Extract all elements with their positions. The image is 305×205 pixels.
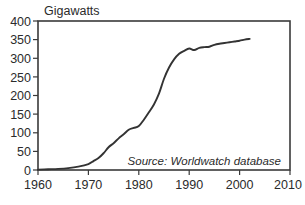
xtick-label-2000: 2000 — [226, 178, 254, 192]
ytick-label-250: 250 — [10, 71, 31, 85]
xtick-label-1990: 1990 — [175, 178, 203, 192]
ytick-label-150: 150 — [10, 108, 31, 122]
ytick-label-50: 50 — [17, 145, 31, 159]
ytick-label-200: 200 — [10, 89, 31, 103]
ytick-label-300: 300 — [10, 52, 31, 66]
capacity-line-series — [38, 39, 250, 170]
plot-frame — [38, 21, 290, 170]
ytick-label-0: 0 — [24, 164, 31, 178]
ytick-label-400: 400 — [10, 15, 31, 29]
y-axis-label: Gigawatts — [44, 4, 100, 18]
chart-canvas: 0 50 100 150 200 250 300 350 400 1960 19… — [0, 0, 305, 205]
xtick-label-1980: 1980 — [125, 178, 153, 192]
xtick-label-1970: 1970 — [74, 178, 102, 192]
xtick-label-1960: 1960 — [24, 178, 52, 192]
source-annotation: Source: Worldwatch database — [128, 155, 281, 167]
ytick-label-100: 100 — [10, 126, 31, 140]
nuclear-capacity-chart: 0 50 100 150 200 250 300 350 400 1960 19… — [0, 0, 305, 205]
ytick-label-350: 350 — [10, 33, 31, 47]
xtick-label-2010: 2010 — [274, 178, 302, 192]
